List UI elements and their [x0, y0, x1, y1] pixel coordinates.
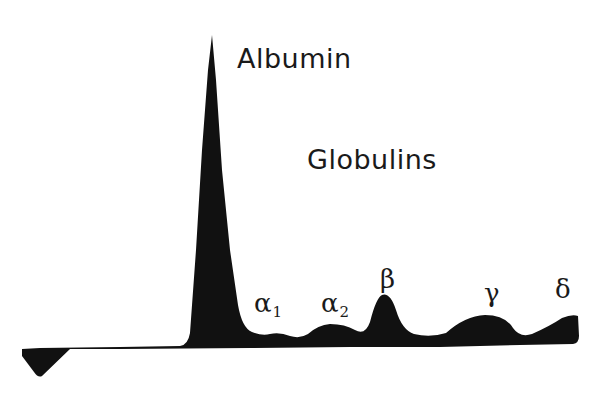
delta-label: δ — [555, 276, 571, 302]
alpha2-symbol: α — [321, 288, 339, 318]
albumin-label: Albumin — [237, 45, 352, 72]
alpha1-subscript: 1 — [273, 303, 283, 321]
alpha1-symbol: α — [254, 288, 272, 318]
alpha1-label: α1 — [254, 290, 282, 320]
alpha2-subscript: 2 — [340, 303, 350, 321]
electrophoresis-figure: Albumin Globulins α1 α2 β γ δ — [0, 0, 605, 408]
beta-label: β — [380, 266, 395, 292]
alpha2-label: α2 — [321, 290, 349, 320]
protein-profile-fill — [22, 35, 579, 377]
globulins-label: Globulins — [307, 146, 437, 173]
gamma-label: γ — [484, 280, 500, 306]
